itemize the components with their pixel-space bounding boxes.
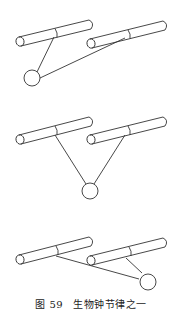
string-left: [55, 135, 86, 184]
string-right: [126, 258, 142, 273]
string-right: [40, 38, 125, 78]
pendulum-ball: [82, 183, 98, 199]
figure-title: 生物钟节律之一: [73, 299, 147, 310]
right-rod: [86, 21, 167, 49]
pendulum-ball: [24, 70, 40, 86]
right-rod: [86, 117, 167, 145]
left-rod: [15, 237, 93, 265]
panel-1: [15, 20, 167, 86]
string-left: [56, 256, 139, 279]
panel-2: [15, 117, 167, 199]
panel-3: [15, 237, 167, 290]
pendulum-ball: [140, 274, 156, 290]
left-rod: [15, 117, 93, 145]
left-rod: [15, 20, 93, 47]
right-rod: [86, 238, 167, 266]
string-left: [37, 37, 54, 72]
figure-number: 图 59: [35, 299, 63, 310]
figure-caption: 图 59生物钟节律之一: [0, 296, 182, 311]
pendulum-diagram: [0, 0, 182, 321]
